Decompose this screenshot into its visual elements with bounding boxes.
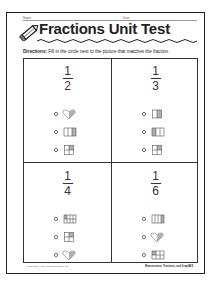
answer-option[interactable] <box>54 249 77 261</box>
answer-radio[interactable] <box>142 235 146 239</box>
name-label: Name <box>23 16 31 20</box>
directions-body: Fill in the circle next to the picture t… <box>47 49 169 54</box>
answer-option[interactable] <box>54 231 77 243</box>
square-quarters-one-shaded-icon <box>149 145 165 155</box>
rectangle-fourths-one-shaded-icon <box>149 214 165 224</box>
answer-option[interactable] <box>54 144 77 156</box>
question-cell: 1 2 <box>24 59 111 160</box>
answer-option[interactable] <box>142 249 165 261</box>
rectangle-sixths-one-shaded-icon <box>149 250 165 260</box>
square-halves-one-shaded-icon <box>149 109 165 119</box>
rectangle-thirds-one-shaded-icon <box>61 127 77 137</box>
fraction: 1 3 <box>112 65 199 92</box>
numerator: 1 <box>24 170 111 182</box>
page-number: 51 <box>189 263 193 268</box>
denominator: 3 <box>112 80 199 92</box>
answer-radio[interactable] <box>54 112 58 116</box>
directions-label: Directions: <box>23 49 47 54</box>
answer-radio[interactable] <box>142 148 146 152</box>
answer-radio[interactable] <box>54 235 58 239</box>
denominator: 2 <box>24 80 111 92</box>
answer-option[interactable] <box>54 108 77 120</box>
question-cell: 1 4 <box>24 164 111 265</box>
answer-option[interactable] <box>142 144 165 156</box>
answer-radio[interactable] <box>142 112 146 116</box>
fraction: 1 6 <box>112 170 199 197</box>
answer-option[interactable] <box>54 213 77 225</box>
rectangle-eighths-one-shaded-icon <box>61 214 77 224</box>
denominator: 4 <box>24 185 111 197</box>
fraction: 1 2 <box>24 65 111 92</box>
copyright-text: Copyright © The Learning Works, Inc. <box>27 265 69 268</box>
answer-option[interactable] <box>142 231 165 243</box>
answer-radio[interactable] <box>142 253 146 257</box>
answer-radio[interactable] <box>54 148 58 152</box>
directions-text: Directions: Fill in the circle next to t… <box>23 49 169 54</box>
answer-radio[interactable] <box>54 130 58 134</box>
grid-divider-horizontal <box>24 162 197 163</box>
fraction: 1 4 <box>24 170 111 197</box>
square-quarters-one-shaded-icon <box>61 145 77 155</box>
worksheet-page: Name Date Fractions Unit Test Directions… <box>6 12 205 274</box>
heart-half-shaded-icon <box>61 250 77 260</box>
question-grid: 1 2 <box>23 58 198 263</box>
book-title: Measurement, Fractions, and Graphs <box>145 265 191 268</box>
answer-option[interactable] <box>54 126 77 138</box>
question-cell: 1 6 <box>112 164 199 265</box>
question-cell: 1 3 <box>112 59 199 160</box>
square-quarters-one-shaded-icon <box>61 232 77 242</box>
numerator: 1 <box>112 170 199 182</box>
denominator: 6 <box>112 185 199 197</box>
answer-radio[interactable] <box>54 253 58 257</box>
numerator: 1 <box>112 65 199 77</box>
answer-radio[interactable] <box>142 217 146 221</box>
answer-option[interactable] <box>142 213 165 225</box>
rectangle-thirds-one-shaded-icon <box>149 127 165 137</box>
answer-radio[interactable] <box>54 217 58 221</box>
page-title: Fractions Unit Test <box>39 20 170 37</box>
answer-radio[interactable] <box>142 130 146 134</box>
answer-option[interactable] <box>142 108 165 120</box>
numerator: 1 <box>24 65 111 77</box>
heart-half-shaded-icon <box>61 109 77 119</box>
heart-half-shaded-icon <box>149 232 165 242</box>
answer-option[interactable] <box>142 126 165 138</box>
wavy-underline <box>37 38 199 44</box>
